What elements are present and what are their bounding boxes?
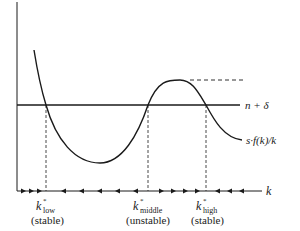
- savings-curve: [34, 50, 242, 163]
- arrow-right-icon: [21, 189, 26, 194]
- arrow-left-icon: [115, 189, 120, 194]
- arrow-right-icon: [159, 189, 164, 194]
- k-high-symbol: k: [196, 199, 202, 213]
- arrow-left-icon: [227, 189, 232, 194]
- x-axis-label: k: [266, 184, 272, 198]
- equilibrium-low-label: k * low (stable): [31, 197, 64, 227]
- arrow-right-icon: [171, 189, 176, 194]
- k-high-superscript: *: [203, 197, 207, 205]
- arrow-right-icon: [195, 189, 200, 194]
- arrow-right-icon: [29, 189, 34, 194]
- solow-diagram: k n + δ s·f(k)/k k * low (stable) k * mi…: [0, 0, 300, 231]
- k-low-symbol: k: [36, 199, 42, 213]
- k-middle-superscript: *: [140, 197, 144, 205]
- arrow-left-icon: [215, 189, 220, 194]
- arrow-right-icon: [183, 189, 188, 194]
- equilibrium-high-label: k * high (stable): [191, 197, 224, 227]
- arrow-right-icon: [37, 189, 42, 194]
- k-high-stability: (stable): [191, 214, 224, 227]
- arrow-left-icon: [79, 189, 84, 194]
- arrow-left-icon: [239, 189, 244, 194]
- k-middle-symbol: k: [133, 199, 139, 213]
- arrow-left-icon: [97, 189, 102, 194]
- arrow-left-icon: [133, 189, 138, 194]
- k-low-stability: (stable): [31, 214, 64, 227]
- equilibrium-middle-label: k * middle (unstable): [126, 197, 170, 227]
- depreciation-line-label: n + δ: [245, 99, 269, 111]
- k-middle-stability: (unstable): [126, 214, 170, 227]
- arrow-left-icon: [61, 189, 66, 194]
- savings-curve-label: s·f(k)/k: [246, 134, 277, 147]
- k-low-superscript: *: [43, 197, 47, 205]
